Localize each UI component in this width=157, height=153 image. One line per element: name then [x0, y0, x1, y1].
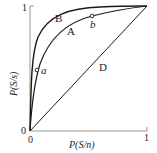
curve-a-label: A [67, 25, 75, 37]
y-axis-title: P(S/s) [8, 71, 20, 97]
y-tick-0: 0 [21, 125, 26, 136]
curve-d-label: D [99, 61, 107, 73]
roc-chart: B A D a b 1 0 0 1 P(S/n) P(S/s) [0, 0, 157, 153]
point-a-marker [35, 68, 39, 72]
curve-b-label: B [55, 12, 62, 24]
x-tick-1: 1 [144, 132, 149, 143]
point-b-label: b [90, 18, 96, 30]
point-a-label: a [41, 64, 47, 76]
curves [30, 6, 147, 131]
curve-d-diagonal [30, 6, 147, 131]
y-tick-1: 1 [22, 2, 27, 13]
x-tick-0: 0 [28, 134, 33, 145]
x-axis-title: P(S/n) [68, 139, 95, 151]
